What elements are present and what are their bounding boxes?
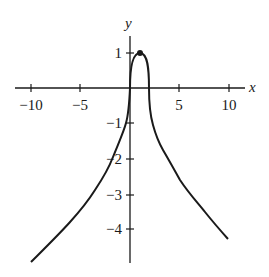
y-tick-label: 1: [115, 45, 123, 61]
x-tick-label: −5: [72, 97, 88, 113]
curve-hump: [130, 53, 149, 88]
curve-right-branch: [149, 88, 228, 239]
y-tick-label: −1: [106, 115, 122, 131]
x-tick-label: 10: [222, 97, 237, 113]
maximum-point-marker: [137, 50, 143, 56]
function-graph: −10 −5 5 10 1 −1 −2 −3 −4 x y: [0, 0, 269, 277]
y-tick-label: −3: [106, 187, 122, 203]
x-tick-label: −10: [19, 97, 42, 113]
y-tick-label: −4: [106, 221, 122, 237]
y-axis-label: y: [123, 15, 132, 31]
x-tick-label: 5: [175, 97, 183, 113]
graph-svg: −10 −5 5 10 1 −1 −2 −3 −4 x y: [0, 0, 269, 277]
x-axis-label: x: [248, 79, 256, 95]
